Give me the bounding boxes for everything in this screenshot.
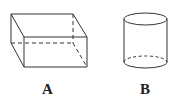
cylinder-top-ellipse xyxy=(124,13,167,25)
prism-top-face xyxy=(11,14,87,37)
cylinder-bottom-back-arc xyxy=(124,56,167,62)
cylinder-figure xyxy=(124,13,167,68)
label-b: B xyxy=(140,82,150,97)
prism-front-face xyxy=(24,37,87,67)
prism-left-bottom-edge xyxy=(11,43,24,67)
diagram-canvas xyxy=(0,0,178,98)
cylinder-bottom-front-arc xyxy=(124,62,167,68)
prism-hidden-edges xyxy=(11,14,87,67)
rectangular-prism-figure xyxy=(11,14,87,67)
label-a: A xyxy=(42,82,53,97)
